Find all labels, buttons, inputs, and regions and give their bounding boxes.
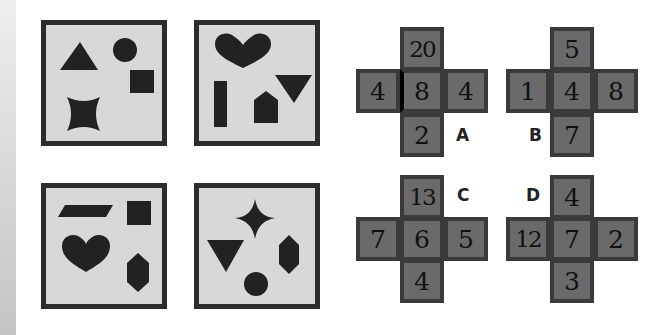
cell-right: 5	[444, 217, 488, 261]
cell-top: 5	[550, 27, 594, 71]
triangle-icon	[60, 42, 98, 70]
cell-top: 20	[400, 27, 444, 71]
square-icon	[127, 201, 151, 225]
option-label: C	[457, 185, 469, 205]
shape-panel-top-left	[41, 20, 167, 146]
heart-icon	[62, 235, 110, 272]
cell-top: 4	[550, 175, 594, 219]
circle-icon	[244, 272, 268, 296]
inverted-triangle-icon	[207, 240, 244, 272]
cell-left: 7	[356, 217, 400, 261]
cell-bottom: 3	[550, 259, 594, 303]
shape-panel-top-right	[194, 20, 320, 146]
heart-icon	[215, 33, 271, 68]
hexagon-icon	[127, 253, 149, 292]
cell-left: 1	[506, 69, 550, 113]
cell-center: 8	[400, 69, 444, 113]
cell-left: 4	[356, 69, 400, 113]
four-point-star-icon	[235, 199, 275, 239]
circle-icon	[113, 38, 137, 62]
cell-center: 6	[400, 217, 444, 261]
cell-bottom: 4	[400, 259, 444, 303]
cell-center: 4	[550, 69, 594, 113]
option-label: A	[456, 125, 469, 145]
shape-panel-bottom-right	[194, 183, 320, 309]
left-edge-strip	[0, 0, 16, 335]
cell-right: 4	[444, 69, 488, 113]
cell-bottom: 7	[550, 113, 594, 157]
square-icon	[130, 70, 154, 93]
parallelogram-icon	[58, 205, 113, 217]
four-point-star-icon	[67, 97, 100, 131]
cell-top: 13	[400, 175, 444, 219]
cell-right: 8	[594, 69, 638, 113]
cell-center: 7	[550, 217, 594, 261]
cell-right: 2	[594, 217, 638, 261]
vertical-rectangle-icon	[214, 81, 227, 127]
inverted-triangle-icon	[275, 75, 312, 103]
option-label: B	[529, 125, 542, 145]
cell-left: 12	[506, 217, 550, 261]
hexagon-icon	[279, 235, 299, 274]
option-label: D	[526, 185, 540, 205]
cell-bottom: 2	[400, 113, 444, 157]
shape-panel-bottom-left	[41, 183, 167, 309]
pentagon-house-icon	[254, 91, 278, 123]
